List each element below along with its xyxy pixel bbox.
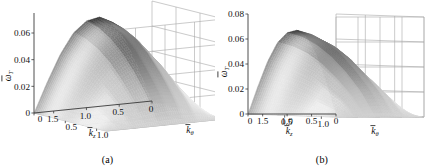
z-tick-label: 0: [239, 109, 244, 119]
x-tick-label: 0: [334, 116, 339, 126]
svg-text:kθ: kθ: [371, 125, 378, 137]
z-axis-title-b: ωT: [218, 66, 231, 77]
z-tick-label: 0: [25, 108, 30, 118]
y-axis-title-b: kθ: [370, 125, 378, 137]
surface-plot-a: 00.020.040.06 1.51.00.50 00.51.0 ωT kz: [0, 0, 215, 167]
z-tick-label: 0.06: [14, 28, 30, 38]
figure-container: 00.020.040.06 1.51.00.50 00.51.0 ωT kz: [0, 0, 429, 167]
z-axis-title-a: ωT: [2, 70, 15, 81]
y-axis-title-sub-a: θ: [191, 129, 194, 136]
z-axis-ticks-a: 00.020.040.06: [14, 28, 34, 118]
panel-a: 00.020.040.06 1.51.00.50 00.51.0 ωT kz: [0, 0, 215, 167]
z-tick-label: 0.06: [228, 34, 244, 44]
svg-text:kz: kz: [89, 127, 96, 139]
y-axis-title-sub-b: θ: [376, 130, 379, 137]
y-tick-label: 0: [38, 114, 43, 124]
y-tick-label: 1.0: [318, 119, 330, 129]
surface-plot-b: 00.020.040.060.08 1.51.00.50 00.51.0 ωT …: [215, 0, 429, 167]
panel-caption-b: (b): [215, 154, 429, 165]
x-tick-label: 0.5: [306, 116, 318, 126]
panel-b: 00.020.040.060.08 1.51.00.50 00.51.0 ωT …: [215, 0, 429, 167]
y-axis-title-a: kθ: [185, 124, 193, 136]
x-tick-label: 0.5: [112, 107, 124, 117]
z-axis-ticks-b: 00.020.040.060.08: [228, 9, 248, 119]
x-tick-label: 1.5: [47, 114, 59, 124]
surface-mesh-a: [34, 17, 215, 131]
z-tick-label: 0.02: [228, 84, 244, 94]
z-tick-label: 0.08: [228, 9, 244, 19]
z-tick-label: 0.02: [14, 82, 30, 92]
x-axis-title-sub-a: z: [92, 132, 96, 139]
svg-text:ωT: ωT: [2, 70, 14, 81]
y-tick-label: 0: [248, 116, 253, 126]
y-tick-label: 0.5: [66, 122, 78, 132]
x-tick-label: 1.5: [257, 116, 269, 126]
y-tick-label: 1.0: [97, 130, 109, 140]
z-axis-title-sub-b: T: [223, 66, 230, 70]
svg-text:ωT: ωT: [218, 66, 230, 77]
x-tick-label: 0: [149, 104, 154, 114]
x-axis-title-sub-b: z: [289, 130, 293, 137]
x-axis-title-a: kz: [87, 127, 95, 139]
z-tick-label: 0.04: [14, 55, 30, 65]
z-axis-title-sub-a: T: [7, 70, 14, 74]
panel-caption-a: (a): [0, 154, 215, 165]
svg-text:kθ: kθ: [186, 124, 193, 136]
x-tick-label: 1.0: [80, 111, 92, 121]
